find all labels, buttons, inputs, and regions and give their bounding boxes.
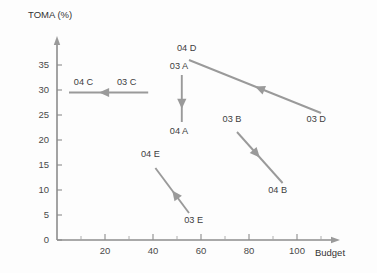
point-label-04-D: 04 D: [177, 43, 197, 53]
y-tick-label: 20: [38, 134, 49, 145]
y-tick-label: 0: [44, 234, 49, 245]
y-tick-label: 10: [38, 184, 49, 195]
y-tick-label: 35: [38, 59, 49, 70]
point-label-03-C: 03 C: [117, 77, 137, 87]
x-tick-label: 100: [289, 245, 305, 256]
data-point-labels: 04 D03 A04 A04 C03 C03 B04 B03 D04 E03 E: [74, 43, 327, 225]
arrowhead-E: [172, 191, 182, 202]
arrow-A: [177, 75, 186, 122]
point-label-03-B: 03 B: [223, 114, 242, 124]
x-tick-label: 80: [244, 245, 255, 256]
y-axis-arrowhead: [54, 36, 60, 45]
point-label-04-E: 04 E: [141, 149, 160, 159]
point-label-03-A: 03 A: [170, 61, 189, 71]
point-label-04-A: 04 A: [170, 126, 189, 136]
x-axis-arrowhead: [331, 237, 340, 243]
arrow-D: [189, 60, 321, 113]
y-tick-label: 25: [38, 109, 49, 120]
y-axis-label: TOMA (%): [28, 9, 72, 20]
y-tick-label: 5: [44, 209, 49, 220]
x-tick-label: 20: [100, 245, 111, 256]
point-label-03-E: 03 E: [184, 215, 203, 225]
arrow-E: [155, 168, 189, 213]
y-tick-label: 30: [38, 84, 49, 95]
x-tick-label: 60: [196, 245, 207, 256]
point-label-04-C: 04 C: [74, 77, 94, 87]
arrow-C: [69, 88, 148, 97]
axis-tick-labels: 0510152025303520406080100: [38, 59, 305, 256]
axis-ticks: [57, 65, 321, 240]
axes: [54, 36, 340, 243]
x-axis-label: Budget: [315, 247, 345, 258]
toma-budget-chart: 0510152025303520406080100 04 D03 A04 A04…: [0, 0, 377, 273]
arrowhead-C: [99, 88, 109, 97]
arrowhead-A: [177, 99, 186, 109]
chart-canvas: 0510152025303520406080100 04 D03 A04 A04…: [0, 0, 377, 273]
point-label-04-B: 04 B: [268, 185, 287, 195]
point-label-03-D: 03 D: [307, 114, 327, 124]
y-tick-label: 15: [38, 159, 49, 170]
arrow-B: [237, 132, 283, 183]
x-tick-label: 40: [148, 245, 159, 256]
